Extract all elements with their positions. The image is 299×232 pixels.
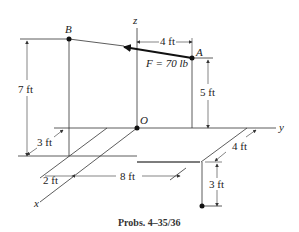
- dim-b-height: 7 ft: [18, 83, 33, 95]
- point-a-label: A: [195, 46, 203, 58]
- dim-a-height: 5 ft: [200, 86, 215, 98]
- z-axis-label: z: [132, 14, 138, 26]
- dim-y-distance: 8 ft: [120, 170, 135, 182]
- dim-c-depth: 3 ft: [209, 178, 224, 190]
- origin-point: [135, 126, 140, 131]
- point-b-label: B: [65, 23, 72, 35]
- point-c: [200, 204, 205, 209]
- point-a: [190, 56, 195, 61]
- x-axis: [40, 128, 137, 202]
- origin-label: O: [140, 114, 148, 126]
- caption: Probs. 4–35/36: [118, 217, 181, 228]
- dim-c-offset: 4 ft: [232, 140, 247, 152]
- dim-x-offset: 2 ft: [43, 174, 58, 186]
- point-b: [67, 37, 72, 42]
- x-axis-label: x: [33, 197, 39, 209]
- dim-b-offset: 3 ft: [37, 136, 52, 148]
- force-label: F = 70 lb: [145, 57, 188, 69]
- y-axis-label: y: [278, 121, 284, 133]
- dim-ab-horizontal: 4 ft: [160, 35, 175, 47]
- force-diagram: z y x O B A F = 70 lb 4 ft 5 ft 7 ft 3 f…: [0, 0, 299, 232]
